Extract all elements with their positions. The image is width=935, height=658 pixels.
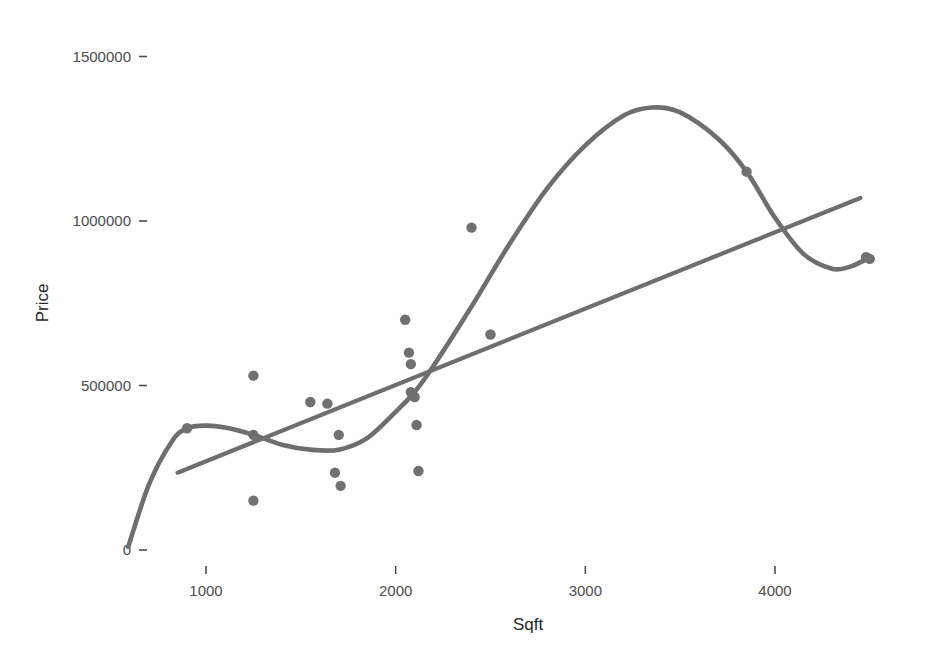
x-axis-title: Sqft bbox=[513, 615, 544, 634]
data-point bbox=[406, 359, 416, 369]
data-point bbox=[305, 397, 315, 407]
y-tick-label: 1500000 bbox=[73, 48, 131, 65]
data-point bbox=[248, 430, 258, 440]
plot-background bbox=[0, 0, 935, 658]
data-point bbox=[330, 467, 340, 477]
data-point bbox=[865, 254, 875, 264]
data-point bbox=[466, 222, 476, 232]
x-tick-label: 1000 bbox=[189, 582, 222, 599]
data-point bbox=[182, 423, 192, 433]
data-point bbox=[322, 398, 332, 408]
x-tick-label: 4000 bbox=[758, 582, 791, 599]
y-tick-label: 1000000 bbox=[73, 212, 131, 229]
y-tick-label: 500000 bbox=[81, 377, 131, 394]
scatter-plot: 050000010000001500000 1000200030004000 S… bbox=[0, 0, 935, 658]
x-tick-label: 2000 bbox=[379, 582, 412, 599]
x-tick-label: 3000 bbox=[569, 582, 602, 599]
data-point bbox=[409, 392, 419, 402]
data-point bbox=[411, 420, 421, 430]
data-point bbox=[400, 315, 410, 325]
data-point bbox=[413, 466, 423, 476]
data-point bbox=[248, 495, 258, 505]
y-axis-title: Price bbox=[33, 284, 52, 323]
data-point bbox=[248, 370, 258, 380]
data-point bbox=[741, 166, 751, 176]
data-point bbox=[485, 329, 495, 339]
chart-page: 050000010000001500000 1000200030004000 S… bbox=[0, 0, 935, 658]
data-point bbox=[334, 430, 344, 440]
data-point bbox=[404, 347, 414, 357]
data-point bbox=[335, 481, 345, 491]
